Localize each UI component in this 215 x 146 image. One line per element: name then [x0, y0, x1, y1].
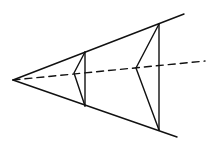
cone-diagram [0, 0, 215, 146]
lower-edge [13, 80, 177, 137]
axis-dashed [13, 61, 205, 80]
far-section-kite [136, 24, 159, 130]
near-section-kite [74, 52, 85, 106]
